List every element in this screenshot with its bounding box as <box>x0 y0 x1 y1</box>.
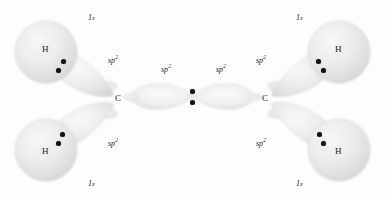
orbital-label-sup: 2 <box>223 63 226 69</box>
orbital-label-sp2-center-right: sp2 <box>216 66 226 74</box>
electron-dot <box>321 68 326 73</box>
orbital-label-sp2-center-left: sp2 <box>161 66 171 74</box>
electron-dot <box>190 100 195 105</box>
figure-canvas: H H C C H H 1s sp2 sp2 sp2 sp2 1s 1s sp2… <box>0 0 388 200</box>
orbital-label-sp2-top-right: sp2 <box>256 57 266 65</box>
orbital-label-sup: 2 <box>168 63 171 69</box>
electron-dot <box>60 132 65 137</box>
orbital-label-sp2-bottom-left: sp2 <box>108 140 118 148</box>
electron-dot <box>190 89 195 94</box>
orbital-label-sup: 2 <box>263 137 266 143</box>
orbital-label-text: 1s <box>88 179 95 188</box>
orbital-label-sup: 2 <box>115 137 118 143</box>
atom-label-h-bottom-right: H <box>335 147 342 156</box>
electron-dot <box>56 68 61 73</box>
orbital-label-text: 1s <box>88 13 95 22</box>
atom-label-h-top-left: H <box>42 45 49 54</box>
orbital-label-sp2-top-left: sp2 <box>108 57 118 65</box>
atom-label-h-bottom-left: H <box>42 147 49 156</box>
electron-dot <box>321 141 326 146</box>
sp2-orbital-center-tip-right <box>246 93 262 101</box>
orbital-label-sup: 2 <box>115 54 118 60</box>
atom-label-c-right: C <box>262 94 268 103</box>
orbital-label-sup: 2 <box>263 54 266 60</box>
orbital-label-text: 1s <box>296 13 303 22</box>
orbital-label-1s-top-right: 1s <box>296 14 303 22</box>
orbital-label-text: 1s <box>296 179 303 188</box>
orbital-label-sp2-bottom-right: sp2 <box>256 140 266 148</box>
orbital-label-1s-top-left: 1s <box>88 14 95 22</box>
sp2-orbital-center-tip-left <box>123 93 139 101</box>
orbital-label-1s-bottom-right: 1s <box>296 180 303 188</box>
electron-dot <box>56 141 61 146</box>
orbital-label-1s-bottom-left: 1s <box>88 180 95 188</box>
electron-dot <box>61 59 66 64</box>
atom-label-h-top-right: H <box>335 45 342 54</box>
electron-dot <box>316 59 321 64</box>
atom-label-c-left: C <box>115 94 121 103</box>
electron-dot <box>317 132 322 137</box>
